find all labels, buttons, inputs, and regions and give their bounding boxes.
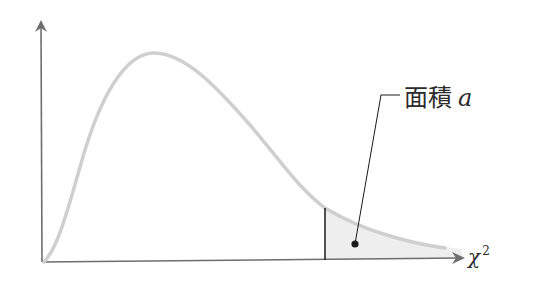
x-axis-superscript: 2	[482, 244, 490, 258]
y-axis	[41, 24, 42, 262]
x-axis-label: χ2	[468, 244, 490, 269]
density-curve	[44, 53, 445, 262]
chi-square-diagram	[0, 0, 545, 288]
area-label-symbol: a	[458, 84, 472, 112]
leader-line	[355, 95, 400, 244]
tail-area-shade	[325, 208, 462, 260]
area-label: 面積a	[404, 78, 472, 113]
x-axis	[42, 258, 460, 262]
area-label-text: 面積	[404, 84, 452, 112]
x-axis-symbol: χ	[468, 245, 480, 269]
